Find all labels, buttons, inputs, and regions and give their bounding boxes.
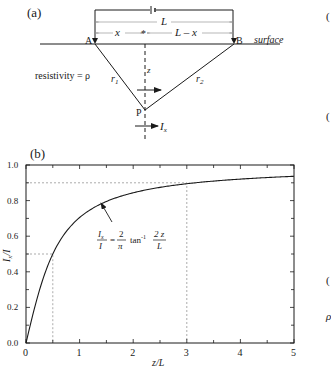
z-label: z bbox=[146, 65, 151, 75]
x-axis-label: z/L bbox=[151, 357, 165, 366]
electrode-A-icon bbox=[92, 38, 98, 44]
svg-text:2 z: 2 z bbox=[154, 229, 165, 239]
clipped-text-fragment: ρ bbox=[325, 310, 331, 322]
panel-b-label: (b) bbox=[30, 146, 45, 161]
x-tick-label: 4 bbox=[237, 347, 242, 358]
svg-text:2: 2 bbox=[119, 229, 124, 239]
r2-line bbox=[145, 44, 234, 110]
y-tick-label: 0.0 bbox=[7, 338, 19, 348]
guide-line bbox=[26, 183, 187, 343]
svg-text:L: L bbox=[156, 241, 162, 251]
L-label: L bbox=[160, 15, 167, 27]
clipped-text-fragment: ( bbox=[326, 110, 330, 123]
y-tick-label: 0.8 bbox=[7, 196, 19, 206]
data-curve bbox=[26, 176, 294, 343]
r1-line bbox=[95, 44, 145, 110]
A-label: A bbox=[85, 35, 93, 46]
surface-label: surface bbox=[254, 34, 284, 45]
y-tick-label: 1.0 bbox=[7, 160, 19, 170]
x-tick-label: 2 bbox=[130, 347, 135, 358]
resistivity-label: resistivity = ρ bbox=[35, 70, 90, 81]
panel-b-chart: (b) 0123450.00.20.40.60.81.0 z/L Ix/I Ix… bbox=[1, 146, 296, 366]
plot-frame bbox=[26, 165, 294, 343]
svg-text:π: π bbox=[118, 241, 123, 251]
figure: (a) L x L – x * surface A B r1 r2 bbox=[0, 0, 331, 366]
y-tick-label: 0.6 bbox=[7, 231, 19, 241]
Ix-label: Ix bbox=[159, 120, 168, 134]
midpoint-star: * bbox=[141, 28, 146, 39]
clipped-text-fragment: ( bbox=[326, 10, 330, 23]
y-tick-label: 0.4 bbox=[7, 267, 19, 277]
r2-label: r2 bbox=[196, 73, 204, 86]
panel-a-diagram: (a) L x L – x * surface A B r1 r2 bbox=[27, 5, 284, 140]
P-label: P bbox=[136, 107, 142, 118]
x-tick-label: 1 bbox=[77, 347, 82, 358]
panel-a-label: (a) bbox=[27, 5, 41, 20]
svg-text:Ix: Ix bbox=[97, 229, 104, 240]
B-label: B bbox=[236, 35, 243, 46]
chart-plot: 0123450.00.20.40.60.81.0 bbox=[7, 160, 296, 358]
y-tick-label: 0.2 bbox=[7, 302, 18, 312]
svg-text:I: I bbox=[98, 241, 103, 251]
L-minus-x-label: L – x bbox=[174, 26, 197, 38]
annotation-arrow-icon bbox=[101, 203, 112, 222]
x-tick-label: 3 bbox=[184, 347, 189, 358]
r1-label: r1 bbox=[111, 73, 118, 86]
x-label: x bbox=[114, 26, 120, 38]
guide-line bbox=[26, 254, 53, 343]
y-axis-label: Ix/I bbox=[1, 249, 14, 263]
svg-text:=: = bbox=[110, 235, 115, 245]
clipped-text-fragment: ( bbox=[326, 274, 330, 287]
x-tick-label: 0 bbox=[23, 347, 28, 358]
equation-annotation: Ix I = 2 π tan-1 2 z L bbox=[97, 203, 166, 251]
x-tick-label: 5 bbox=[291, 347, 296, 358]
svg-text:tan-1: tan-1 bbox=[130, 234, 146, 245]
